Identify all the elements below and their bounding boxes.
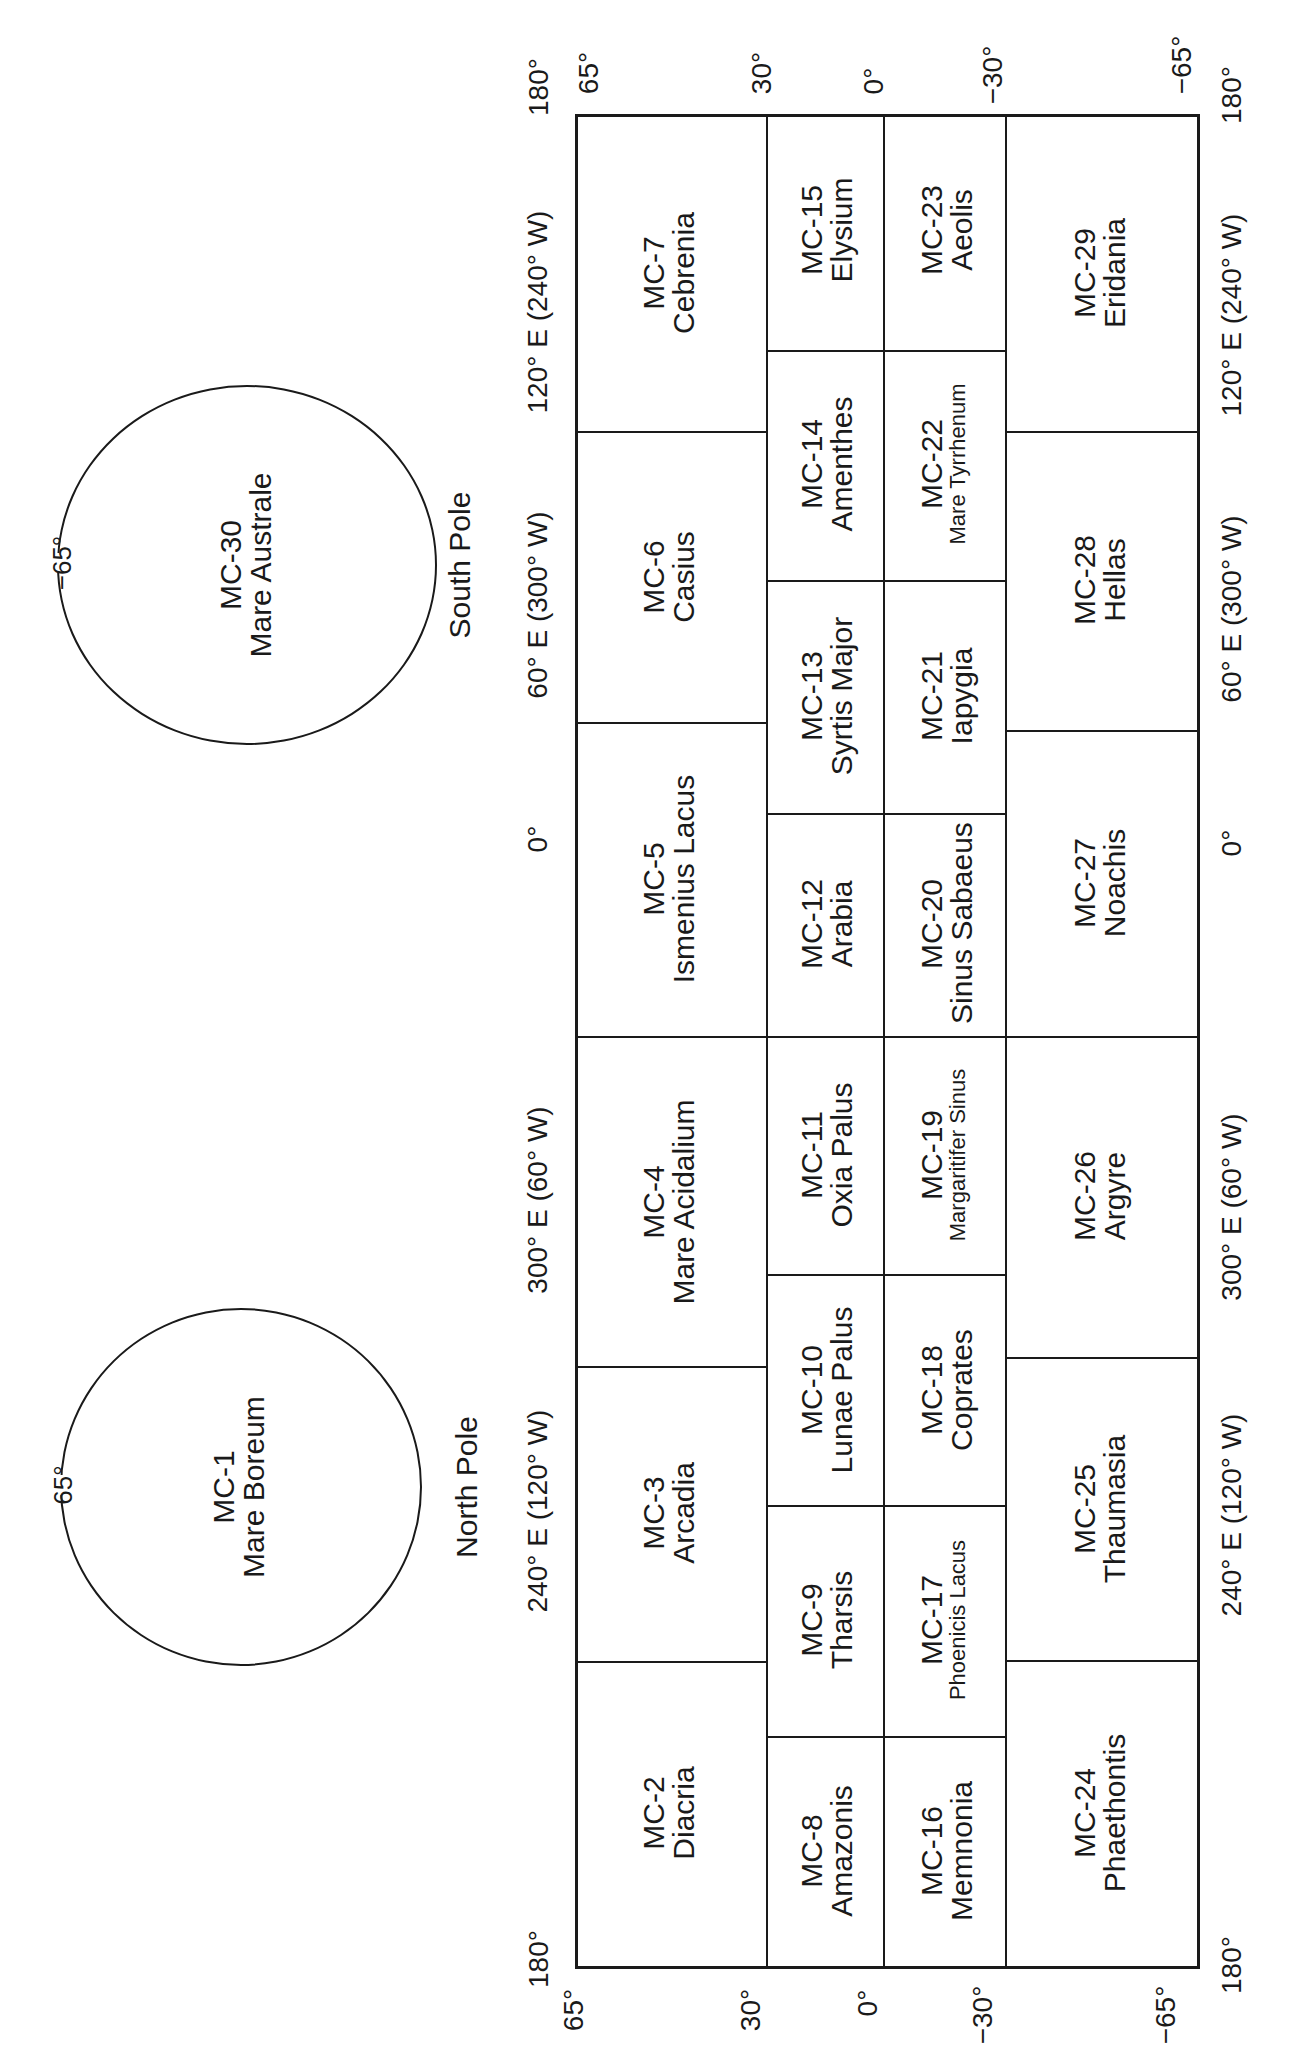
cell-id: MC-3 — [639, 1413, 669, 1613]
cell-name: Mare Acidalium — [669, 1092, 699, 1312]
north-band-cut — [576, 1036, 767, 1038]
lon-label-left: 120° E (240° W) — [524, 197, 554, 427]
equatorial-band-cut — [767, 1736, 1006, 1738]
cell-id: MC-24 — [1070, 1713, 1100, 1913]
south-band-cut — [1006, 730, 1198, 732]
cell-name: Memnonia — [947, 1771, 977, 1931]
quadrangle-cell: MC-14 Amenthes — [797, 384, 853, 544]
cell-id: MC-5 — [639, 769, 669, 989]
lon-label-right: 180° — [1218, 55, 1248, 135]
cell-name: Tharsis — [827, 1540, 857, 1700]
lat-label-bottom: 0° — [854, 1978, 884, 2028]
cell-id: MC-19 — [917, 1055, 947, 1255]
lat-label-bottom: 65° — [560, 1975, 590, 2045]
north-band-cut — [576, 431, 767, 433]
quadrangle-cell: MC-15 Elysium — [797, 150, 853, 310]
equatorial-band-cut — [767, 1505, 1006, 1507]
quadrangle-cell: MC-10 Lunae Palus — [797, 1300, 853, 1480]
cell-id: MC-27 — [1070, 783, 1100, 983]
quadrangle-cell: MC-24 Phaethontis — [1070, 1713, 1134, 1913]
cell-name: Iapygia — [947, 616, 977, 776]
cell-id: MC-9 — [797, 1540, 827, 1700]
quadrangle-cell: MC-12 Arabia — [797, 844, 853, 1004]
quadrangle-cell: MC-11 Oxia Palus — [797, 1065, 853, 1245]
quadrangle-cell: MC-8 Amazonis — [797, 1771, 853, 1931]
lon-label-left: 240° E (120° W) — [524, 1396, 554, 1626]
cell-name: Arabia — [827, 844, 857, 1004]
lon-label-right: 60° E (300° W) — [1218, 504, 1248, 714]
quadrangle-cell: MC-23 Aeolis — [917, 150, 973, 310]
cell-id: MC-13 — [797, 606, 827, 786]
cell-name: Argyre — [1100, 1096, 1130, 1296]
lat-label-top: −65° — [1168, 25, 1198, 105]
cell-name: Thaumasia — [1100, 1409, 1130, 1609]
quadrangle-cell: MC-28 Hellas — [1070, 480, 1134, 680]
lon-label-left: 300° E (60° W) — [524, 1095, 554, 1305]
cell-name: Casius — [669, 477, 699, 677]
quadrangle-cell: MC-21 Iapygia — [917, 616, 973, 776]
cell-name: Eridania — [1100, 173, 1130, 373]
quadrangle-cell: MC-4 Mare Acidalium — [639, 1092, 703, 1312]
north-pole-title: North Pole — [452, 1412, 486, 1562]
quadrangle-cell: MC-3 Arcadia — [639, 1413, 703, 1613]
cell-name: Phaethontis — [1100, 1713, 1130, 1913]
lon-label-left: 180° — [525, 47, 555, 127]
south-band-cut — [1006, 1036, 1198, 1038]
cell-name: Noachis — [1100, 783, 1130, 983]
cell-name: Amazonis — [827, 1771, 857, 1931]
lon-label-left: 0° — [524, 819, 554, 859]
quadrangle-cell: MC-6 Casius — [639, 477, 703, 677]
south-pole-boundary-label: −65° — [49, 523, 79, 603]
cell-name: Syrtis Major — [827, 606, 857, 786]
quadrangle-cell: MC-26 Argyre — [1070, 1096, 1134, 1296]
equatorial-band-cut — [767, 350, 1006, 352]
lat-label-top: 30° — [748, 38, 778, 108]
quadrangle-cell: MC-9 Tharsis — [797, 1540, 853, 1700]
cell-name: Sinus Sabaeus — [947, 824, 977, 1024]
quadrangle-cell: MC-22 Mare Tyrrhenum — [917, 374, 973, 554]
cell-name: Mare Boreum — [239, 1392, 269, 1582]
cell-name: Amenthes — [827, 384, 857, 544]
cell-name: Margaritifer Sinus — [947, 1055, 969, 1255]
cell-id: MC-17 — [917, 1530, 947, 1710]
cell-name: Cebrenia — [669, 173, 699, 373]
cell-id: MC-6 — [639, 477, 669, 677]
lat-line-30 — [766, 114, 768, 1969]
grid-frame-top — [576, 114, 1200, 117]
cell-name: Lunae Palus — [827, 1300, 857, 1480]
lon-label-right: 300° E (60° W) — [1218, 1102, 1248, 1312]
cell-id: MC-16 — [917, 1771, 947, 1931]
lon-label-left: 180° — [525, 1919, 555, 1999]
cell-name: Mare Tyrrhenum — [947, 374, 969, 554]
equatorial-band-cut — [767, 1274, 1006, 1276]
quadrangle-cell: MC-19 Margaritifer Sinus — [917, 1055, 973, 1255]
lat-line-0 — [883, 114, 885, 1969]
cell-id: MC-25 — [1070, 1409, 1100, 1609]
lat-label-bottom: −30° — [969, 1975, 999, 2047]
cell-id: MC-28 — [1070, 480, 1100, 680]
cell-id: MC-18 — [917, 1310, 947, 1470]
cell-id: MC-8 — [797, 1771, 827, 1931]
lon-label-right: 120° E (240° W) — [1218, 200, 1248, 430]
quadrangle-cell: MC-20 Sinus Sabaeus — [917, 824, 973, 1024]
lon-label-right: 0° — [1218, 823, 1248, 863]
quadrangle-cell: MC-18 Coprates — [917, 1310, 973, 1470]
south-band-cut — [1006, 431, 1198, 433]
cell-id: MC-11 — [797, 1065, 827, 1245]
north-pole-boundary-label: 65° — [50, 1450, 80, 1520]
cell-id: MC-26 — [1070, 1096, 1100, 1296]
quadrangle-cell: MC-16 Memnonia — [917, 1771, 973, 1931]
lon-label-right: 240° E (120° W) — [1218, 1400, 1248, 1630]
cell-name: Ismenius Lacus — [669, 769, 699, 989]
cell-id: MC-2 — [639, 1713, 669, 1913]
cell-id: MC-22 — [917, 374, 947, 554]
lon-label-right: 180° — [1218, 1925, 1248, 2005]
cell-id: MC-12 — [797, 844, 827, 1004]
lat-label-bottom: 30° — [737, 1975, 767, 2045]
grid-frame-right — [1197, 114, 1200, 1969]
quadrangle-cell: MC-29 Eridania — [1070, 173, 1134, 373]
grid-frame-left — [575, 114, 578, 1969]
equatorial-band-cut — [767, 1036, 1006, 1038]
cell-name: Oxia Palus — [827, 1065, 857, 1245]
cell-id: MC-1 — [209, 1392, 239, 1582]
